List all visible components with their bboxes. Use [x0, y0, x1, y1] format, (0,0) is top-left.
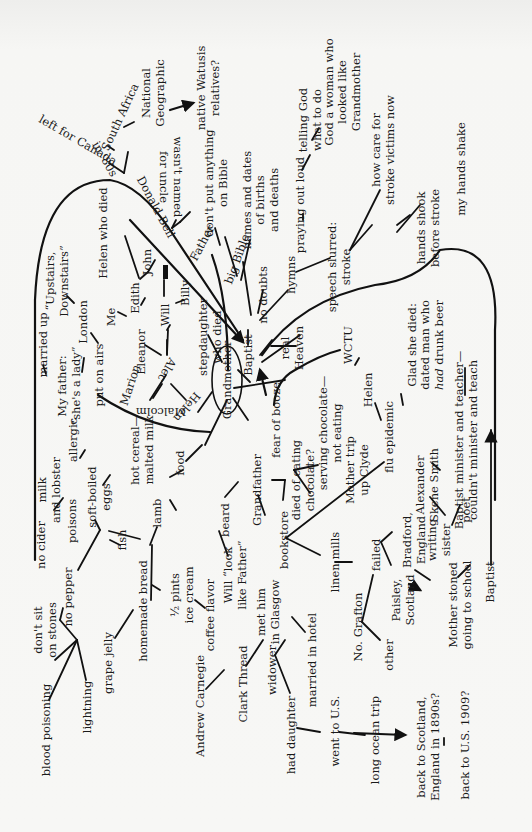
connector-line [80, 450, 85, 458]
connector-line [415, 570, 430, 580]
connector-line [167, 330, 168, 354]
cluster-map-diagram: GrandmotherBaptistrealHeavenfear of booz… [0, 0, 532, 832]
label-will-look: Will “looklike Father” [221, 540, 249, 609]
connector-line [152, 585, 160, 590]
label-helen-wctu: Helen [361, 372, 375, 407]
label-upstairs: “Upstairs,Downstairs” [43, 245, 71, 317]
label-went-to-us: went to U.S. [328, 696, 342, 767]
label-mother-trip: Mother tripup Clyde [343, 436, 371, 504]
connector-line [124, 152, 128, 173]
label-telling-god: telling Godwhat to do [296, 87, 324, 152]
connector-line [375, 403, 381, 420]
label-back-to-scotland: back to Scotland,England in 1890s? [414, 693, 442, 801]
label-bookstore: bookstore [277, 511, 291, 569]
label-helen-who-died: Helen who died [96, 187, 110, 279]
label-south-africa: South Africa [98, 81, 141, 153]
connector-line [78, 530, 100, 570]
connector-line [77, 640, 86, 680]
connector-line [115, 610, 133, 638]
connector-line [150, 527, 157, 545]
label-died-of-eating: died of eatingchocolate? [289, 439, 317, 520]
label-homemade-bread: homemade bread [136, 560, 150, 662]
label-london: London [76, 300, 90, 344]
label-widower: widower [265, 645, 279, 695]
label-andrew-carnegie: Andrew Carnegie [193, 655, 207, 758]
label-speech-slurred: speech slurred:stroke [325, 222, 353, 312]
label-alexander: AlexanderSkene Smith [413, 447, 441, 522]
connector-line [124, 122, 134, 127]
label-put-on-airs: put on airs [92, 343, 106, 406]
label-grandfather: Grandfather [250, 454, 264, 526]
connector-line [283, 480, 285, 500]
label-no-doubts: no doubts [256, 266, 270, 324]
connector-line [91, 333, 98, 343]
label-hands-shook: hands shookbefore stroke [414, 189, 442, 267]
label-beard: beard [218, 502, 232, 537]
label-wctu: WCTU [341, 326, 355, 364]
label-fear-of-booze: fear of booze [269, 382, 283, 458]
label-half-pints: ½ pintsice cream [168, 566, 196, 623]
connector-line [260, 340, 272, 355]
label-hot-cereal: hot cereal—malted milk [128, 414, 156, 485]
connector-line [153, 384, 162, 398]
label-hymns: hymns [284, 256, 298, 294]
label-clark-thread: Clark Thread [236, 645, 250, 723]
connector-line [297, 728, 320, 732]
connector-line [206, 670, 224, 689]
label-god-woman: God a woman wholooked likeGrandmother [322, 38, 363, 145]
connector-line [355, 358, 359, 365]
connector-line [292, 617, 305, 632]
connector-line [225, 482, 238, 497]
label-had-daughter: had daughter [284, 695, 298, 774]
label-married-up: married up [36, 312, 50, 377]
label-linen-mills: linen mills [328, 532, 342, 593]
label-praying: praying out loud [293, 156, 307, 253]
label-john: John [140, 248, 154, 276]
cluster-map-page: GrandmotherBaptistrealHeavenfear of booz… [0, 0, 532, 832]
label-soft-boiled: soft-boiledeggs [85, 466, 113, 528]
connector-line [243, 262, 251, 315]
label-long-ocean-trip: long ocean trip [368, 696, 382, 784]
label-paisley: Paisley,Scotland [389, 574, 417, 626]
label-alec: Alec [155, 355, 180, 385]
label-no-grafton: No. Grafton [351, 592, 365, 661]
node-labels: GrandmotherBaptistrealHeavenfear of booz… [31, 38, 497, 801]
label-back-to-us: back to U.S. 1909? [458, 691, 472, 800]
label-bradford: Bradford,England [400, 512, 428, 568]
label-met-him: met himin Glasgow [254, 580, 282, 645]
label-poisons: poisons [65, 499, 79, 543]
label-flu-epidemic: flu epidemic [382, 401, 396, 473]
connector-line [186, 445, 202, 461]
label-my-father: My father:“she's a lady” [55, 346, 83, 426]
redacted-bar [163, 265, 168, 279]
label-dont-sit: don't siton stones [31, 602, 59, 658]
connector-line [151, 545, 152, 600]
label-dont-put-anything: don't put anythingon Bible [202, 129, 230, 237]
connector-line [286, 538, 320, 555]
connector-line [401, 394, 403, 405]
label-poet: poet [459, 497, 473, 523]
label-milk-lobster: milkand lobster [35, 456, 63, 523]
label-edith: Edith [128, 282, 142, 314]
label-no-pepper: no pepper [61, 567, 75, 627]
label-baptist-2: Baptist [483, 561, 497, 603]
label-names-and-dates: names and datesof birthsand deaths [240, 151, 281, 249]
label-blood-poisoning: blood poisoning [39, 683, 53, 776]
label-will: Will [158, 303, 172, 326]
connector-line [125, 236, 139, 278]
label-fish: fish [115, 529, 129, 551]
label-food: food [173, 450, 187, 476]
label-mother-stoned: Mother stonedgoing to school [446, 560, 474, 649]
label-failed: failed [369, 538, 383, 571]
label-glad-she-died: Glad she died:dated man whohad drunk bee… [405, 299, 446, 390]
label-coffee-flavor: coffee flavor [203, 578, 217, 651]
label-lamb: lamb [150, 499, 164, 528]
label-marion: Marion [117, 362, 144, 407]
label-national-geographic: NationalGeographic [139, 59, 167, 127]
label-native-watusis: native Watusisrelatives? [194, 46, 222, 131]
label-writing-sister: writingsister [425, 518, 453, 561]
connector-line [170, 500, 176, 510]
label-married-in-hotel: married in hotel [305, 612, 319, 707]
label-lightning: lightning [80, 680, 94, 733]
label-baptist: Baptist [241, 334, 255, 376]
